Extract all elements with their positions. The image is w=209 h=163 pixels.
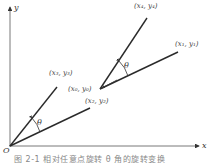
ray-origin-p2 [10,108,90,146]
point-label-p1: (x₁, y₁) [175,41,198,48]
theta-label-p0: θ [124,62,129,70]
point-label-p0: (x₀, y₀) [68,86,91,93]
figure-caption: 图 2-1 相对任意点旋转 θ 角的旋转变换 [14,153,204,163]
origin-label: O [3,147,10,155]
rotation-diagram [0,0,209,163]
point-label-p2: (x₂, y₂) [85,98,108,105]
x-axis-label: x [202,142,207,150]
y-axis-label: y [14,4,19,12]
p0-pointer-arrow [102,80,117,88]
ray-origin-p3 [10,87,57,146]
theta-label-origin: θ [37,119,42,127]
point-label-p3: (x₃, y₃) [49,70,72,77]
point-label-p4: (x₄, y₄) [134,3,157,10]
